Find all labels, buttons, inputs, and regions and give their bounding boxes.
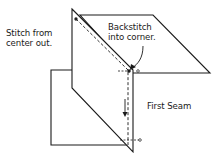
label-line: First Seam	[147, 101, 191, 111]
pin-circle-bottom	[139, 139, 142, 142]
pin-circle-top	[137, 70, 140, 73]
start-dot	[75, 18, 77, 20]
label-line: Stitch from	[6, 28, 52, 38]
label-backstitch-into-corner: Backstitch into corner.	[108, 22, 156, 42]
label-stitch-from-center: Stitch from center out.	[6, 28, 52, 48]
label-line: into corner.	[108, 32, 156, 42]
corner-dot-top	[128, 70, 130, 72]
label-first-seam: First Seam	[147, 101, 191, 111]
label-line: center out.	[6, 38, 52, 48]
label-line: Backstitch	[108, 22, 156, 32]
